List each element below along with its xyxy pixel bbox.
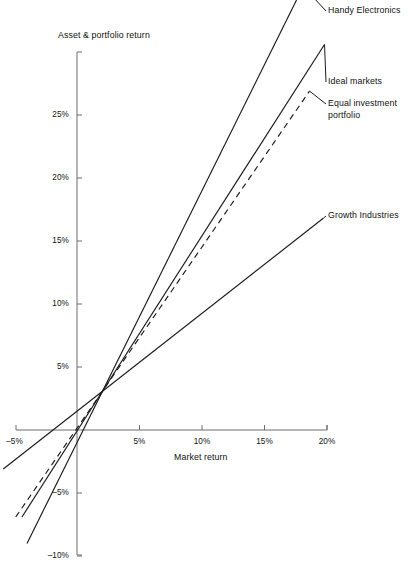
series-line-growth-industries (3, 218, 323, 469)
callout-leaders (303, 0, 326, 218)
series-label-handy-electronics: Handy Electronics (328, 5, 401, 17)
y-axis-ticks (77, 115, 82, 556)
y-tick-label-5: 5% (35, 361, 69, 373)
y-tick-label-10: 10% (35, 298, 69, 310)
series-label-growth-industries: Growth Industries (328, 210, 399, 222)
callout-leader-equal-investment-portfolio (310, 91, 327, 104)
series-group (3, 0, 324, 543)
y-tick-label--10: –10% (35, 550, 69, 562)
x-tick-label-10: 10% (185, 436, 219, 448)
x-tick-label-5: 5% (123, 436, 157, 448)
y-tick-label-20: 20% (35, 172, 69, 184)
x-axis-title: Market return (174, 452, 228, 464)
x-tick-label-15: 15% (248, 436, 282, 448)
series-line-handy-electronics (27, 0, 303, 543)
y-axis-title: Asset & portfolio return (58, 30, 150, 42)
callout-leader-growth-industries (323, 216, 326, 218)
x-tick-label-20: 20% (310, 436, 344, 448)
y-tick-label-15: 15% (35, 235, 69, 247)
x-axis-ticks (140, 425, 328, 430)
chart-container: Asset & portfolio return Market return –… (0, 0, 416, 572)
y-tick-label-25: 25% (35, 109, 69, 121)
callout-leader-handy-electronics (303, 0, 326, 11)
callout-leader-ideal-markets (325, 44, 327, 82)
series-label-ideal-markets: Ideal markets (328, 76, 382, 88)
y-tick-label--5: –5% (35, 487, 69, 499)
x-tick-label--5: –5% (0, 436, 32, 448)
series-label-equal-investment-portfolio: Equal investment portfolio (328, 98, 397, 121)
